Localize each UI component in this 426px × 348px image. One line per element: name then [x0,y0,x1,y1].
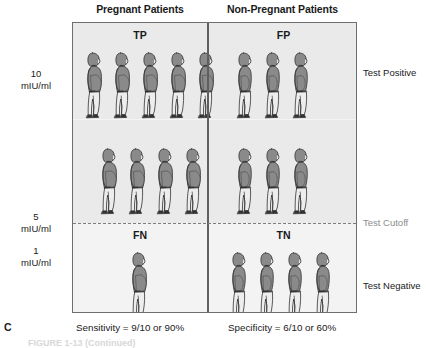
quadrant-label-true-negative: TN [209,229,357,241]
patient-figure-non-pregnant [253,249,279,313]
axis-label-1-unit: mIU/ml [2,257,70,269]
patient-figure-non-pregnant [231,145,257,215]
axis-label-10-unit: mIU/ml [2,80,70,92]
patient-figure-non-pregnant [259,49,285,119]
test-cutoff-line [73,223,356,224]
row-separator [73,119,356,120]
axis-label-5-unit: mIU/ml [2,223,70,235]
patient-figure-pregnant [80,49,106,119]
patient-figure-pregnant [108,49,134,119]
patient-figure-pregnant [95,145,121,215]
sensitivity-specificity-grid: TP FP FN TN [72,22,357,313]
patient-figure-pregnant [179,145,205,215]
patient-figure-pregnant [125,249,151,313]
caption-specificity: Specificity = 6/10 or 60% [228,322,336,333]
patient-figure-pregnant [192,49,218,119]
axis-label-5-miu: 5 mIU/ml [2,211,70,234]
figure-row-fn-1 [125,249,153,313]
patient-figure-non-pregnant [231,49,257,119]
patient-figure-non-pregnant [225,249,251,313]
side-label-test-positive: Test Positive [363,67,416,78]
quadrant-label-true-positive: TP [73,29,207,41]
patient-figure-pregnant [164,49,190,119]
caption-sensitivity: Sensitivity = 9/10 or 90% [76,322,184,333]
patient-figure-non-pregnant [281,249,307,313]
figure-row-tn-1 [225,249,337,313]
axis-label-1-miu: 1 mIU/ml [2,245,70,268]
column-header-pregnant: Pregnant Patients [72,3,208,15]
patient-figure-non-pregnant [287,49,313,119]
patient-figure-pregnant [136,49,162,119]
figure-caption-remnant: FIGURE 1-13 (Continued) [28,338,136,348]
side-label-test-cutoff: Test Cutoff [363,217,408,228]
quadrant-label-false-negative: FN [73,229,207,241]
axis-label-1-number: 1 [2,245,70,257]
axis-label-5-number: 5 [2,211,70,223]
figure-row-fp-2 [231,145,315,215]
quadrant-label-false-positive: FP [209,29,357,41]
figure-row-tp-1 [80,49,220,119]
patient-figure-non-pregnant [259,145,285,215]
column-header-non-pregnant: Non-Pregnant Patients [208,3,357,15]
figure-row-fp-1 [231,49,315,119]
patient-figure-non-pregnant [309,249,335,313]
patient-figure-non-pregnant [287,145,313,215]
axis-label-10-number: 10 [2,68,70,80]
side-label-test-negative: Test Negative [363,280,421,291]
axis-label-10-miu: 10 mIU/ml [2,68,70,91]
patient-figure-pregnant [151,145,177,215]
column-divider [207,23,209,312]
patient-figure-pregnant [123,145,149,215]
figure-row-tp-2 [95,145,207,215]
panel-letter-label: C [4,321,12,333]
